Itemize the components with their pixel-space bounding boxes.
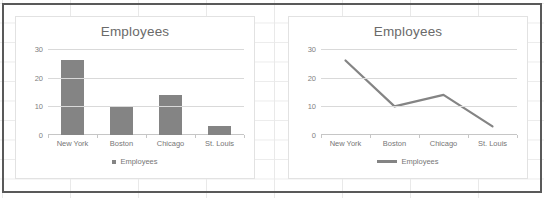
x-axis-tick-mark xyxy=(244,135,245,138)
bar-series-Employees[interactable] xyxy=(48,49,244,135)
x-axis-tick-mark xyxy=(146,135,147,138)
line-chart-title: Employees xyxy=(289,24,527,39)
legend-square-marker-icon xyxy=(112,160,116,164)
gridline xyxy=(48,49,244,50)
y-axis-tick-label: 0 xyxy=(39,131,43,140)
y-axis-tick-label: 10 xyxy=(35,102,43,111)
spreadsheet-canvas: Employees 0102030 New YorkBostonChicagoS… xyxy=(0,0,544,198)
line-chart-category-labels: New YorkBostonChicagoSt. Louis xyxy=(321,139,517,148)
x-axis-tick-mark xyxy=(517,135,518,138)
line-series-Employees[interactable] xyxy=(321,49,517,135)
x-axis-tick-mark xyxy=(468,135,469,138)
bar-slot xyxy=(146,49,195,135)
y-axis-tick-label: 20 xyxy=(308,73,316,82)
category-label: Boston xyxy=(97,139,146,148)
y-axis-tick-label: 30 xyxy=(35,45,43,54)
gridline xyxy=(321,106,517,107)
category-label: Chicago xyxy=(146,139,195,148)
line-path[interactable] xyxy=(346,60,493,126)
gridline xyxy=(321,49,517,50)
category-label: St. Louis xyxy=(468,139,517,148)
bar[interactable] xyxy=(208,126,232,135)
y-axis-tick-label: 30 xyxy=(308,45,316,54)
x-axis-tick-mark xyxy=(97,135,98,138)
y-axis-tick-label: 10 xyxy=(308,102,316,111)
bar[interactable] xyxy=(159,95,183,135)
y-axis-tick-label: 0 xyxy=(312,131,316,140)
category-label: Boston xyxy=(370,139,419,148)
bar-chart-category-labels: New YorkBostonChicagoSt. Louis xyxy=(48,139,244,148)
bar[interactable] xyxy=(61,60,85,135)
category-label: Chicago xyxy=(419,139,468,148)
bar-slot xyxy=(195,49,244,135)
line-chart-plot-area: 0102030 xyxy=(321,49,517,135)
line-chart-legend-label: Employees xyxy=(401,157,438,166)
bar-slot xyxy=(97,49,146,135)
bar-chart-panel[interactable]: Employees 0102030 New YorkBostonChicagoS… xyxy=(15,16,255,179)
category-label: New York xyxy=(321,139,370,148)
bar-chart-legend-label: Employees xyxy=(120,157,157,166)
bar-chart-plot-area: 0102030 xyxy=(48,49,244,135)
y-axis-tick-label: 20 xyxy=(35,73,43,82)
bar[interactable] xyxy=(110,106,134,135)
bar-slot xyxy=(48,49,97,135)
line-chart-legend[interactable]: Employees xyxy=(289,157,527,166)
gridline xyxy=(48,78,244,79)
x-axis-tick-mark xyxy=(48,135,49,138)
gridline xyxy=(48,106,244,107)
legend-line-marker-icon xyxy=(377,160,397,163)
category-label: New York xyxy=(48,139,97,148)
x-axis-tick-mark xyxy=(370,135,371,138)
gridline xyxy=(321,78,517,79)
bar-chart-title: Employees xyxy=(16,24,254,39)
bar-chart-legend[interactable]: Employees xyxy=(16,157,254,166)
x-axis-tick-mark xyxy=(195,135,196,138)
category-label: St. Louis xyxy=(195,139,244,148)
line-chart-panel[interactable]: Employees 0102030 New YorkBostonChicagoS… xyxy=(288,16,528,179)
x-axis-tick-mark xyxy=(419,135,420,138)
x-axis-tick-mark xyxy=(321,135,322,138)
